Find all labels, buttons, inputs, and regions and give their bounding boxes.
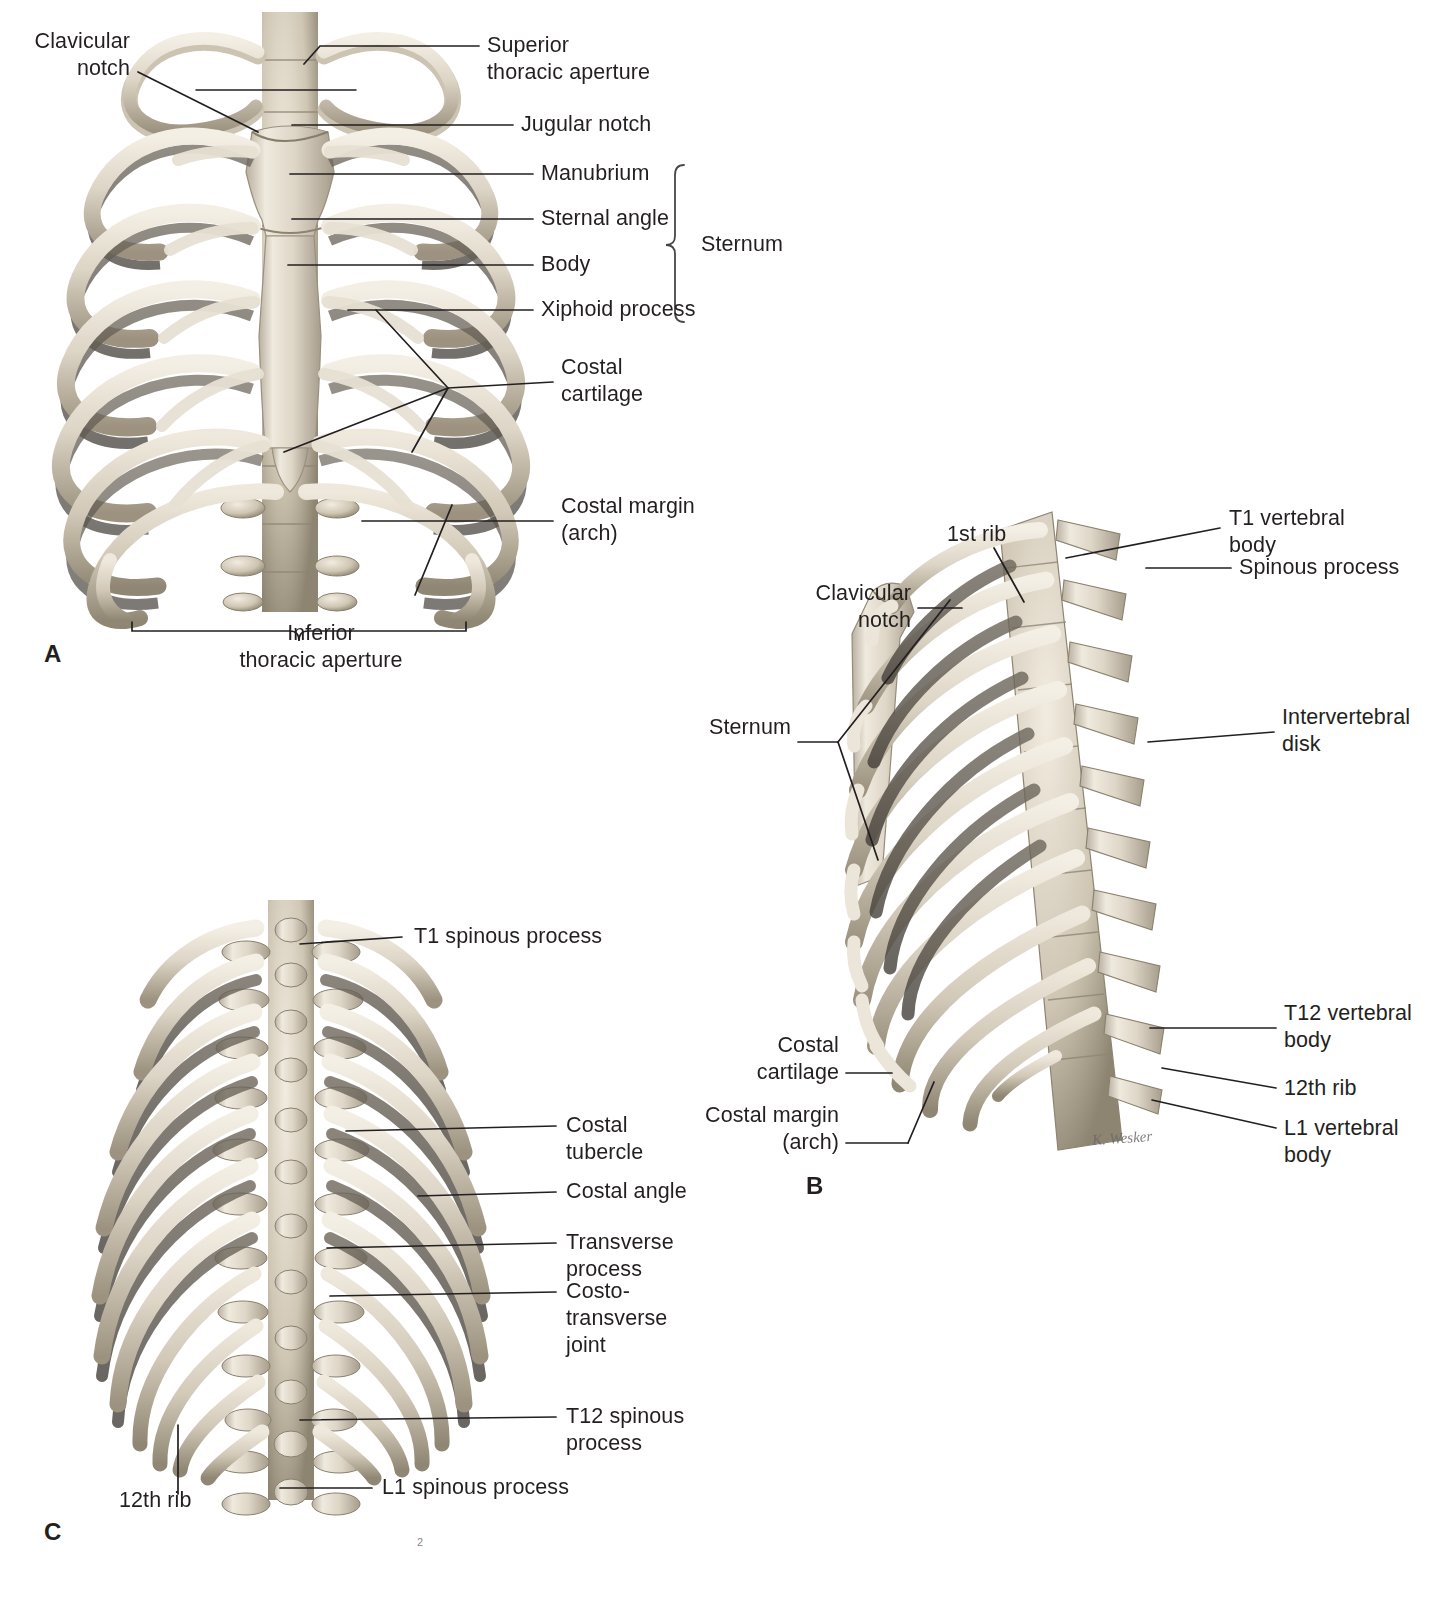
anatomy-figure: Clavicular notch Superior thoracic apert… [0, 0, 1432, 1599]
label-spinous-process: Spinous process [1239, 554, 1399, 581]
label-costal-margin-a: Costal margin (arch) [561, 493, 695, 547]
label-clavicular-notch-b: Clavicular notch [700, 580, 911, 634]
label-superior-thoracic-aperture: Superior thoracic aperture [487, 32, 650, 86]
panel-c-artwork [100, 900, 482, 1515]
label-manubrium: Manubrium [541, 160, 649, 187]
label-sternum-brace-a: Sternum [701, 231, 783, 258]
label-jugular-notch: Jugular notch [521, 111, 651, 138]
label-t12-vertebral-body: T12 vertebral body [1284, 1000, 1412, 1054]
label-twelfth-rib-b: 12th rib [1284, 1075, 1357, 1102]
label-costal-tubercle: Costal tubercle [566, 1112, 643, 1166]
label-clavicular-notch-a: Clavicular notch [2, 28, 130, 82]
leader-twelfth-rib-b [1162, 1068, 1276, 1088]
label-l1-spinous-process: L1 spinous process [382, 1474, 569, 1501]
panel-letter-c: C [44, 1518, 61, 1546]
label-intervertebral-disk: Intervertebral disk [1282, 704, 1410, 758]
panel-letter-a: A [44, 640, 61, 668]
page-number: 2 [417, 1536, 423, 1548]
label-inferior-thoracic-aperture: Inferior thoracic aperture [204, 620, 438, 674]
label-costal-angle: Costal angle [566, 1178, 687, 1205]
label-costal-cartilage-a: Costal cartilage [561, 354, 643, 408]
label-twelfth-rib-c: 12th rib [119, 1487, 192, 1514]
label-costotransverse-joint: Costo- transverse joint [566, 1278, 667, 1359]
label-first-rib: 1st rib [947, 521, 1006, 548]
label-sternum-b: Sternum [600, 714, 791, 741]
label-sternal-angle: Sternal angle [541, 205, 669, 232]
panel-a-artwork [61, 12, 521, 621]
label-t1-spinous-process: T1 spinous process [414, 923, 602, 950]
panel-letter-b: B [806, 1172, 823, 1200]
label-body: Body [541, 251, 590, 278]
label-t1-vertebral-body: T1 vertebral body [1229, 505, 1345, 559]
leader-intervertebral-disk [1148, 732, 1274, 742]
label-t12-spinous-process: T12 spinous process [566, 1403, 684, 1457]
label-l1-vertebral-body: L1 vertebral body [1284, 1115, 1399, 1169]
label-transverse-process: Transverse process [566, 1229, 674, 1283]
label-xiphoid-process: Xiphoid process [541, 296, 695, 323]
label-costal-cartilage-b: Costal cartilage [640, 1032, 839, 1086]
leader-l1-vertebral-body [1152, 1100, 1276, 1128]
